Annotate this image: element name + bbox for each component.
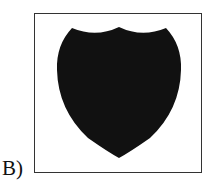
option-label: B) <box>2 158 23 179</box>
shield-icon <box>0 0 215 189</box>
